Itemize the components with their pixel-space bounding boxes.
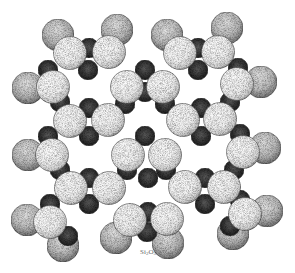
oxygen-atom-front	[151, 203, 184, 236]
oxygen-atom-front	[55, 172, 88, 205]
oxygen-atom-front	[111, 71, 144, 104]
oxygen-atom-front	[204, 103, 237, 136]
oxygen-atom-front	[34, 206, 67, 239]
oxygen-atom-front	[167, 104, 200, 137]
oxygen-atom-front	[202, 36, 235, 69]
oxygen-atom-front	[93, 36, 126, 69]
oxygen-atom-front	[208, 171, 241, 204]
oxygen-atom-front	[36, 139, 69, 172]
oxygen-atom-front	[37, 71, 70, 104]
oxygen-atom-front	[92, 104, 125, 137]
oxygen-atom-front	[149, 139, 182, 172]
oxygen-atom-front	[54, 37, 87, 70]
oxygen-atom-front	[221, 68, 254, 101]
formula-label: Si2O5	[140, 248, 156, 256]
oxygen-atom-front	[112, 139, 145, 172]
oxygen-atom-front	[114, 204, 147, 237]
formula-sub-5: 5	[153, 251, 156, 256]
oxygen-atom-front	[164, 37, 197, 70]
molecular-diagram: Si2O5	[0, 0, 295, 273]
oxygen-atom-front	[229, 198, 262, 231]
oxygen-atom-front	[227, 136, 260, 169]
silicon-atom	[138, 168, 158, 188]
oxygen-atom-front	[93, 172, 126, 205]
oxygen-atom-front	[147, 71, 180, 104]
oxygen-atom-front	[54, 105, 87, 138]
oxygen-atom-front	[169, 171, 202, 204]
si2o5-sheet-structure	[0, 0, 295, 273]
